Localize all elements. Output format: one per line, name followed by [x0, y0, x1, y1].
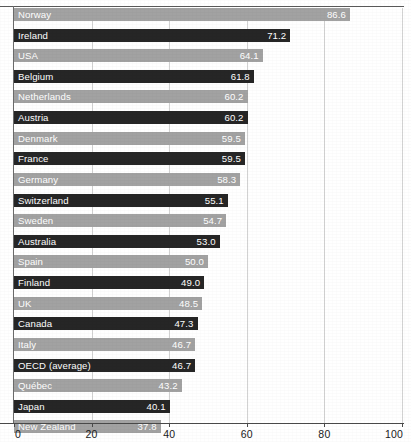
bar-category-label: Austria: [18, 111, 49, 124]
bar-value-label: 53.0: [193, 235, 216, 248]
bar-row: Denmark59.5: [14, 132, 402, 145]
bar-value-label: 59.5: [218, 132, 241, 145]
bar-value-label: 71.2: [263, 29, 286, 42]
bar: [14, 255, 208, 268]
bar-category-label: Denmark: [18, 132, 58, 145]
bar-row: Australia53.0: [14, 235, 402, 248]
bar-value-label: 58.3: [213, 173, 236, 186]
bar-row: Netherlands60.2: [14, 90, 402, 103]
bar-category-label: France: [18, 152, 48, 165]
bar-category-label: Sweden: [18, 214, 53, 227]
x-axis-tick: [169, 423, 170, 427]
x-axis-tick-label: 60: [227, 428, 267, 440]
bar-value-label: 60.2: [221, 111, 244, 124]
bar: [14, 111, 248, 124]
bar-row: France59.5: [14, 152, 402, 165]
bar-category-label: Belgium: [18, 70, 53, 83]
bar-value-label: 46.7: [168, 359, 191, 372]
bar-category-label: OECD (average): [18, 359, 91, 372]
x-axis-tick-label: 100: [363, 428, 403, 440]
bar-value-label: 40.1: [143, 400, 166, 413]
x-axis-tick: [247, 423, 248, 427]
bar-row: Ireland71.2: [14, 29, 402, 42]
bar-category-label: UK: [18, 297, 32, 310]
bar-row: Germany58.3: [14, 173, 402, 186]
bar-category-label: Italy: [18, 338, 36, 351]
bar-category-label: Finland: [18, 276, 50, 289]
x-axis-line: [0, 423, 404, 424]
bar-row: Japan40.1: [14, 400, 402, 413]
gridline: [402, 8, 403, 423]
bar-row: OECD (average)46.7: [14, 359, 402, 372]
bar-category-label: Canada: [18, 317, 52, 330]
bar-category-label: Ireland: [18, 29, 48, 42]
bar: [14, 29, 290, 42]
bar-row: Austria60.2: [14, 111, 402, 124]
bar: [14, 8, 350, 21]
bar-chart: Norway86.6Ireland71.2USA64.1Belgium61.8N…: [0, 0, 411, 442]
bar: [14, 49, 263, 62]
bar-row: Italy46.7: [14, 338, 402, 351]
bar-row: Canada47.3: [14, 317, 402, 330]
bar-category-label: Netherlands: [18, 90, 71, 103]
plot-area: Norway86.6Ireland71.2USA64.1Belgium61.8N…: [14, 8, 402, 423]
chart-top-rule: [0, 6, 404, 7]
bar: [14, 297, 202, 310]
bar-value-label: 55.1: [201, 194, 224, 207]
bar-value-label: 50.0: [181, 255, 204, 268]
bar-value-label: 47.3: [171, 317, 194, 330]
bar-row: Norway86.6: [14, 8, 402, 21]
bar-value-label: 86.6: [323, 8, 346, 21]
bar-row: Québec43.2: [14, 379, 402, 392]
bar-category-label: Switzerland: [18, 194, 69, 207]
bar-category-label: Norway: [18, 8, 51, 21]
bar-value-label: 64.1: [236, 49, 259, 62]
bar-row: UK48.5: [14, 297, 402, 310]
bar-row: Belgium61.8: [14, 70, 402, 83]
x-axis-tick-label: 40: [149, 428, 189, 440]
x-axis-tick-label: 80: [304, 428, 344, 440]
bar-value-label: 61.8: [227, 70, 250, 83]
bar-value-label: 54.7: [199, 214, 222, 227]
bar-value-label: 60.2: [221, 90, 244, 103]
bar-category-label: USA: [18, 49, 38, 62]
bar-value-label: 48.5: [175, 297, 198, 310]
x-axis-tick: [324, 423, 325, 427]
bar: [14, 152, 245, 165]
bar-category-label: Spain: [18, 255, 43, 268]
bar-row: USA64.1: [14, 49, 402, 62]
x-axis-tick: [402, 423, 403, 427]
bar-row: Switzerland55.1: [14, 194, 402, 207]
x-axis-tick: [92, 423, 93, 427]
bar-value-label: 59.5: [218, 152, 241, 165]
x-axis-tick-label: 0: [15, 428, 55, 440]
bar-row: Sweden54.7: [14, 214, 402, 227]
bar-value-label: 49.0: [177, 276, 200, 289]
bar-category-label: Australia: [18, 235, 56, 248]
bar-category-label: Germany: [18, 173, 58, 186]
bar-row: Finland49.0: [14, 276, 402, 289]
x-axis-tick-label: 20: [72, 428, 112, 440]
bar-row: Spain50.0: [14, 255, 402, 268]
bar-value-label: 46.7: [168, 338, 191, 351]
bar-category-label: Japan: [18, 400, 45, 413]
bar-category-label: Québec: [18, 379, 52, 392]
bar-value-label: 43.2: [155, 379, 178, 392]
x-axis-tick: [14, 423, 15, 427]
